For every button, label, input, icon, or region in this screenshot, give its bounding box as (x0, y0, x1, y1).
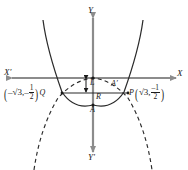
left-coordinate-label: (–√3,– 1 2 )Q (3, 84, 45, 102)
left-fraction: 1 2 (29, 84, 35, 100)
y-negative-axis-label: Y′ (88, 153, 95, 162)
y-positive-axis-label: Y (88, 6, 93, 15)
point-q-marker (61, 92, 64, 95)
parabola-figure: X′ X Y Y′ L A′ R A (–√3,– 1 2 )Q P(√3, –… (0, 0, 188, 170)
right-numerator: –1 (151, 84, 161, 92)
left-denominator: 2 (29, 92, 35, 101)
right-denominator: 2 (151, 92, 161, 101)
right-radical: √3 (139, 87, 148, 97)
midpoint-label: R (96, 93, 101, 101)
left-radical: √3 (13, 87, 22, 97)
right-fraction: –1 2 (151, 84, 161, 100)
reflected-vertex-label: A′ (111, 80, 118, 88)
right-open-paren: ( (135, 87, 138, 102)
x-negative-axis-label: X′ (4, 68, 11, 77)
right-close-paren: ) (161, 87, 164, 102)
right-point-name: P (129, 88, 134, 97)
right-coordinate-label: P(√3, –1 2 ) (129, 84, 165, 102)
left-open-paren: ( (4, 87, 7, 102)
left-point-name: Q (39, 88, 45, 97)
x-positive-axis-label: X (177, 69, 183, 78)
latus-rectum-label: L (90, 79, 94, 87)
vertex-label: A (90, 106, 95, 114)
left-numerator: 1 (29, 84, 35, 92)
left-close-paren: ) (35, 87, 38, 102)
